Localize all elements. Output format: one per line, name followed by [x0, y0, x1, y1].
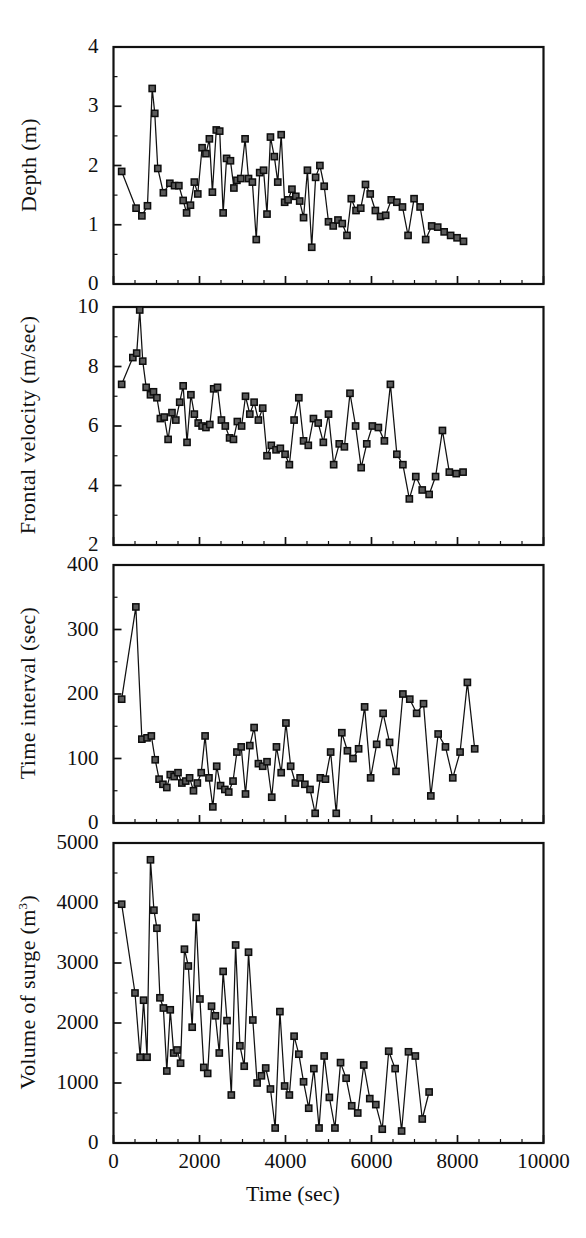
data-point-marker: [321, 1053, 327, 1059]
data-point-marker: [212, 1013, 218, 1019]
data-point-marker: [277, 1009, 283, 1015]
data-point-marker: [361, 1062, 367, 1068]
data-point-marker: [282, 451, 288, 457]
data-point-marker: [206, 136, 212, 142]
data-point-marker: [241, 1063, 247, 1069]
data-point-marker: [198, 770, 204, 776]
data-point-marker: [296, 1051, 302, 1057]
data-point-marker: [289, 186, 295, 192]
data-point-marker: [305, 442, 311, 448]
data-point-marker: [419, 487, 425, 493]
data-point-marker: [167, 1007, 173, 1013]
data-point-marker: [187, 775, 193, 781]
data-point-marker: [143, 384, 149, 390]
data-point-marker: [271, 154, 277, 160]
data-point-marker: [321, 183, 327, 189]
data-point-marker: [352, 423, 358, 429]
data-point-marker: [356, 746, 362, 752]
data-point-marker: [309, 244, 315, 250]
data-point-marker: [412, 1053, 418, 1059]
data-point-marker: [226, 789, 232, 795]
data-point-marker: [406, 496, 412, 502]
data-point-marker: [316, 1125, 322, 1131]
data-point-marker: [217, 128, 223, 134]
data-point-marker: [362, 704, 368, 710]
data-point-marker: [349, 1103, 355, 1109]
data-point-marker: [291, 1033, 297, 1039]
data-point-marker: [185, 963, 191, 969]
data-point-marker: [258, 1073, 264, 1079]
data-point-marker: [399, 1128, 405, 1134]
data-point-marker: [214, 384, 220, 390]
data-point-marker: [435, 224, 441, 230]
data-point-marker: [141, 997, 147, 1003]
data-point-marker: [286, 462, 292, 468]
data-point-marker: [191, 179, 197, 185]
data-point-marker: [386, 1048, 392, 1054]
data-point-marker: [320, 439, 326, 445]
data-point-marker: [288, 763, 294, 769]
data-point-marker: [197, 996, 203, 1002]
data-point-marker: [155, 165, 161, 171]
data-point-marker: [255, 417, 261, 423]
data-point-marker: [190, 788, 196, 794]
data-point-marker: [177, 399, 183, 405]
data-point-marker: [230, 778, 236, 784]
data-point-marker: [207, 421, 213, 427]
data-point-marker: [230, 436, 236, 442]
data-point-marker: [132, 990, 138, 996]
data-point-marker: [304, 167, 310, 173]
axes-frame: [114, 565, 544, 823]
data-point-marker: [306, 1105, 312, 1111]
data-point-marker: [435, 731, 441, 737]
data-point-marker: [160, 190, 166, 196]
data-point-marker: [180, 383, 186, 389]
data-point-marker: [297, 775, 303, 781]
data-point-marker: [187, 202, 193, 208]
data-point-marker: [381, 438, 387, 444]
data-point-marker: [273, 744, 279, 750]
data-point-marker: [337, 1060, 343, 1066]
data-point-marker: [313, 174, 319, 180]
data-point-marker: [367, 191, 373, 197]
axes-frame: [114, 47, 544, 284]
data-point-marker: [325, 411, 331, 417]
data-point-marker: [278, 132, 284, 138]
data-point-marker: [457, 749, 463, 755]
data-point-marker: [355, 1110, 361, 1116]
data-point-marker: [203, 151, 209, 157]
data-point-marker: [375, 424, 381, 430]
data-line-frontal-velocity: [122, 310, 463, 499]
data-point-marker: [282, 1083, 288, 1089]
data-point-marker: [380, 710, 386, 716]
data-point-marker: [341, 444, 347, 450]
data-point-marker: [188, 392, 194, 398]
data-point-marker: [148, 733, 154, 739]
data-point-marker: [174, 1047, 180, 1053]
data-point-marker: [151, 907, 157, 913]
data-point-marker: [272, 1125, 278, 1131]
data-point-marker: [286, 1092, 292, 1098]
data-point-marker: [133, 604, 139, 610]
data-point-marker: [446, 469, 452, 475]
data-point-marker: [393, 768, 399, 774]
data-point-marker: [386, 739, 392, 745]
data-point-marker: [343, 1075, 349, 1081]
data-point-marker: [144, 1054, 150, 1060]
data-point-marker: [267, 1086, 273, 1092]
data-point-marker: [417, 204, 423, 210]
data-point-marker: [140, 358, 146, 364]
data-point-marker: [348, 196, 354, 202]
data-point-marker: [300, 1079, 306, 1085]
data-point-marker: [242, 393, 248, 399]
data-point-marker: [464, 679, 470, 685]
data-point-marker: [184, 439, 190, 445]
data-point-marker: [189, 1024, 195, 1030]
data-point-marker: [344, 232, 350, 238]
data-point-marker: [247, 411, 253, 417]
data-point-marker: [238, 175, 244, 181]
data-point-marker: [169, 410, 175, 416]
y-axis-label-frontal-velocity: Frontal velocity (m/sec): [15, 291, 41, 559]
data-point-marker: [419, 1116, 425, 1122]
data-line-depth: [122, 88, 464, 247]
